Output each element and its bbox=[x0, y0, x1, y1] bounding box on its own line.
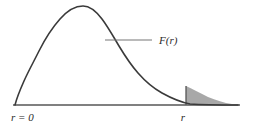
density-curve-figure: F(r) r = 0 r bbox=[0, 0, 253, 126]
shaded-tail-region bbox=[186, 86, 238, 105]
density-curve bbox=[15, 6, 238, 105]
origin-label: r = 0 bbox=[11, 111, 34, 123]
curve-label: F(r) bbox=[158, 34, 178, 47]
threshold-label: r bbox=[181, 111, 186, 123]
